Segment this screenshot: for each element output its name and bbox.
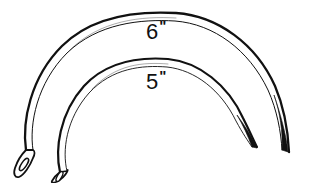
size-label-small-unit: " [159, 67, 165, 84]
size-label-large-unit: " [159, 17, 165, 34]
size-label-large-needle: 6" [146, 20, 164, 43]
size-label-large-number: 6 [146, 19, 158, 44]
needle-illustration-figure: 6" 5" [0, 0, 309, 183]
size-label-small-number: 5 [146, 69, 158, 94]
size-label-small-needle: 5" [146, 70, 164, 93]
